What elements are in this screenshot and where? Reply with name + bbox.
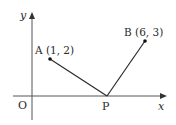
y-axis-label: y xyxy=(19,9,27,22)
point-p-label: P xyxy=(102,100,110,113)
x-axis-arrow-icon xyxy=(160,93,167,99)
coordinate-diagram: y x O A (1, 2) B (6, 3) P xyxy=(0,0,176,125)
point-b-label: B (6, 3) xyxy=(124,26,163,38)
point-a-label: A (1, 2) xyxy=(34,44,74,56)
origin-label: O xyxy=(18,99,27,112)
x-axis-label: x xyxy=(158,100,165,113)
y-axis-arrow-icon xyxy=(29,12,35,19)
point-a xyxy=(48,57,52,61)
segment-ap xyxy=(50,59,107,96)
segment-pb xyxy=(107,41,145,96)
point-b xyxy=(143,39,147,43)
